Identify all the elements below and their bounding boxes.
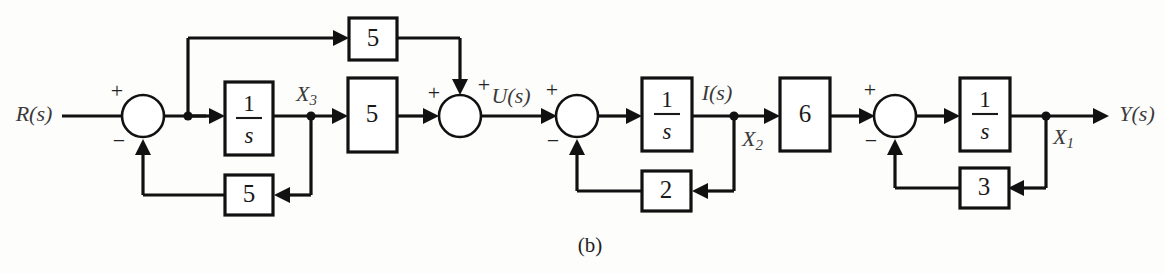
summing-junction-4[interactable] bbox=[874, 95, 916, 137]
label-input-rs: R(s) bbox=[15, 101, 53, 126]
summing-junction-3[interactable] bbox=[556, 95, 598, 137]
block-gain-feedback-2-label: 2 bbox=[660, 176, 673, 203]
block-diagram-svg: 5 1 s 5 5 1 s 2 6 1 s 3 bbox=[0, 0, 1165, 274]
arrow-into-sum1-minus bbox=[135, 139, 151, 155]
block-integrator-3-numerator: 1 bbox=[979, 87, 991, 112]
label-x3: X3 bbox=[295, 81, 317, 108]
block-integrator-3-denominator: s bbox=[981, 119, 990, 144]
sign-sum3-plus: + bbox=[546, 77, 558, 102]
block-integrator-1-denominator: s bbox=[245, 123, 254, 148]
sign-sum1-minus: − bbox=[113, 128, 125, 153]
figure-canvas: 5 1 s 5 5 1 s 2 6 1 s 3 bbox=[0, 0, 1165, 274]
arrow-into-integrator2 bbox=[626, 108, 642, 124]
sign-sum4-plus: + bbox=[864, 77, 876, 102]
sign-sum2-plus-left: + bbox=[428, 80, 440, 105]
arrow-into-gain-forward-5 bbox=[332, 108, 348, 124]
arrow-output-ys bbox=[1093, 108, 1109, 124]
arrow-into-sum4-minus bbox=[887, 139, 903, 155]
sign-sum3-minus: − bbox=[547, 128, 559, 153]
arrow-into-gain-6 bbox=[764, 108, 780, 124]
block-integrator-2-denominator: s bbox=[663, 119, 672, 144]
summing-junction-2[interactable] bbox=[439, 95, 481, 137]
arrow-into-gain-feedback-2 bbox=[692, 183, 708, 199]
arrow-into-gain-top-5 bbox=[333, 30, 349, 46]
arrow-into-sum2-top bbox=[452, 79, 468, 95]
block-integrator-2-numerator: 1 bbox=[661, 87, 673, 112]
block-gain-top-5-label: 5 bbox=[367, 24, 380, 51]
arrow-into-sum3-minus bbox=[569, 139, 585, 155]
sign-sum1-plus: + bbox=[111, 78, 123, 103]
label-x1: X1 bbox=[1052, 124, 1074, 151]
block-integrator-1-numerator: 1 bbox=[243, 91, 255, 116]
block-gain-feedback-3-label: 3 bbox=[978, 173, 991, 200]
figure-caption: (b) bbox=[578, 233, 603, 257]
arrow-into-sum4-left bbox=[859, 108, 875, 124]
sign-sum4-minus: − bbox=[865, 128, 877, 153]
arrow-into-gain-feedback-5 bbox=[274, 187, 290, 203]
block-gain-6-label: 6 bbox=[799, 100, 812, 127]
block-gain-forward-5-label: 5 bbox=[366, 100, 379, 127]
sign-sum2-plus-top: + bbox=[478, 72, 490, 97]
block-gain-feedback-5-label: 5 bbox=[243, 180, 256, 207]
label-x2: X2 bbox=[741, 126, 763, 153]
arrow-into-integrator1 bbox=[209, 108, 225, 124]
label-output-ys: Y(s) bbox=[1119, 101, 1154, 126]
summing-junction-1[interactable] bbox=[122, 95, 164, 137]
arrow-into-sum3-left bbox=[541, 108, 557, 124]
label-is: I(s) bbox=[701, 80, 733, 105]
arrow-into-integrator3 bbox=[944, 108, 960, 124]
label-us: U(s) bbox=[491, 83, 530, 108]
arrow-into-sum2-left bbox=[423, 108, 439, 124]
